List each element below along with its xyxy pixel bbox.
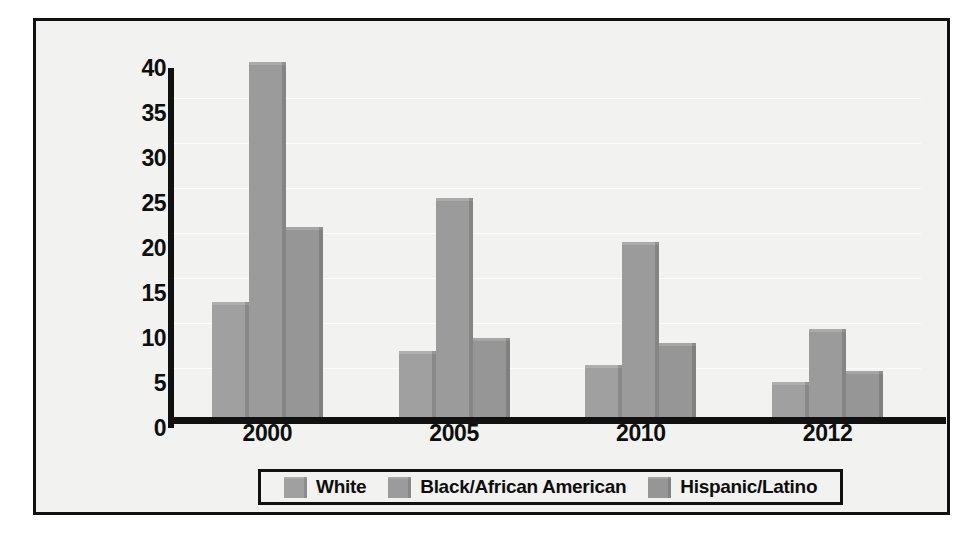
- chart-legend: White Black/African American Hispanic/La…: [258, 469, 843, 505]
- bar: [436, 198, 473, 417]
- x-axis-tick-labels: 2000 2005 2010 2012: [174, 420, 921, 454]
- x-tick-label: 2012: [734, 420, 921, 454]
- bar: [473, 338, 510, 417]
- x-tick-label: 2010: [548, 420, 735, 454]
- bar: [286, 227, 323, 417]
- x-tick-label: 2000: [174, 420, 361, 454]
- bar-group: [548, 57, 735, 417]
- legend-label: Black/African American: [420, 476, 626, 498]
- y-tick-label: 25: [120, 192, 166, 215]
- bar-groups: [174, 57, 921, 417]
- legend-label: White: [316, 476, 366, 498]
- y-tick-label: 5: [120, 372, 166, 395]
- y-tick-label: 35: [120, 102, 166, 125]
- bar: [212, 302, 249, 417]
- legend-item-black-african-american: Black/African American: [388, 476, 626, 498]
- bar-group: [361, 57, 548, 417]
- chart-frame: 40 35 30 25 20 15 10 5 0 2000 2005 2010 …: [33, 18, 950, 515]
- bar-group: [174, 57, 361, 417]
- legend-swatch-icon: [284, 477, 307, 498]
- legend-label: Hispanic/Latino: [680, 476, 817, 498]
- y-tick-label: 40: [120, 57, 166, 80]
- bar: [846, 371, 883, 417]
- bar: [772, 382, 809, 417]
- bar: [399, 351, 436, 417]
- legend-swatch-icon: [388, 477, 411, 498]
- y-tick-label: 0: [120, 417, 166, 440]
- bar: [585, 365, 622, 417]
- bar: [249, 62, 286, 418]
- bar-group: [734, 57, 921, 417]
- y-axis-tick-labels: 40 35 30 25 20 15 10 5 0: [111, 48, 166, 438]
- legend-item-white: White: [284, 476, 366, 498]
- y-tick-label: 20: [120, 237, 166, 260]
- chart-screenshot: 40 35 30 25 20 15 10 5 0 2000 2005 2010 …: [0, 0, 974, 536]
- plot-area: 40 35 30 25 20 15 10 5 0 2000 2005 2010 …: [131, 48, 921, 438]
- legend-swatch-icon: [648, 477, 671, 498]
- bar: [622, 242, 659, 417]
- y-tick-label: 10: [120, 327, 166, 350]
- bar: [809, 329, 846, 417]
- x-tick-label: 2005: [361, 420, 548, 454]
- y-tick-label: 30: [120, 147, 166, 170]
- legend-item-hispanic-latino: Hispanic/Latino: [648, 476, 817, 498]
- y-tick-label: 15: [120, 282, 166, 305]
- bar: [659, 343, 696, 417]
